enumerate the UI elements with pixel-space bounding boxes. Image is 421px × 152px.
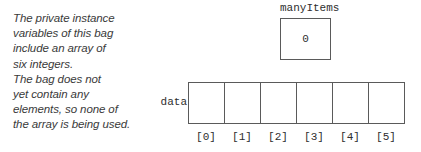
many-items-value: 0: [302, 33, 309, 45]
annotation-line: yet contain any: [13, 87, 153, 102]
array-index-row: [0] [1] [2] [3] [4] [5]: [188, 131, 405, 143]
array-cell: [261, 83, 297, 123]
annotation-line: include an array of: [13, 41, 153, 56]
diagram-canvas: The private instance variables of this b…: [0, 0, 421, 152]
many-items-variable: manyItems 0: [280, 2, 331, 60]
array-cell: [333, 83, 369, 123]
data-array-label: data: [157, 96, 187, 108]
array-index-label: [0]: [188, 131, 224, 143]
array-index-label: [2]: [260, 131, 296, 143]
array-cell: [369, 83, 405, 123]
annotation-line: elements, so none of: [13, 102, 153, 117]
array-cell: [225, 83, 261, 123]
array-index-label: [3]: [296, 131, 332, 143]
array-index-label: [4]: [332, 131, 368, 143]
annotation-line: The private instance: [13, 11, 153, 26]
annotation-line: The bag does not: [13, 72, 153, 87]
annotation-line: six integers.: [13, 57, 153, 72]
array-cell-row: [188, 82, 405, 124]
array-index-label: [5]: [368, 131, 404, 143]
array-index-label: [1]: [224, 131, 260, 143]
annotation-line: variables of this bag: [13, 26, 153, 41]
annotation-line: the array is being used.: [13, 117, 153, 132]
annotation-text-block: The private instance variables of this b…: [13, 11, 153, 133]
array-cell: [297, 83, 333, 123]
array-cell: [189, 83, 225, 123]
many-items-box: 0: [280, 18, 331, 60]
many-items-label: manyItems: [280, 2, 331, 14]
data-array: [0] [1] [2] [3] [4] [5]: [188, 82, 405, 143]
